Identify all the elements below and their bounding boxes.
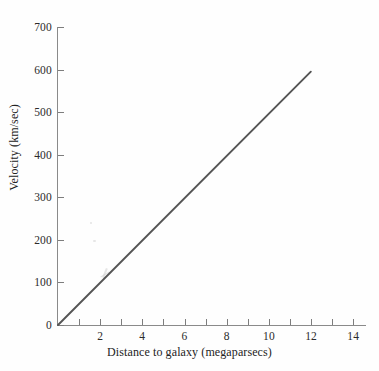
x-tick-12: [311, 319, 312, 325]
x-tick-7: [206, 319, 207, 325]
y-tick-600: [58, 70, 64, 71]
y-axis-title: Velocity (km/sec): [7, 88, 22, 208]
y-tick-0: [58, 325, 64, 326]
y-tick-label-100: 100: [8, 276, 52, 288]
x-axis-line: [58, 325, 366, 326]
x-tick-4: [142, 319, 143, 325]
y-tick-label-200: 200: [8, 234, 52, 246]
x-tick-3: [121, 319, 122, 325]
x-tick-label-8: 8: [224, 330, 230, 342]
y-tick-300: [58, 197, 64, 198]
scan-artifact: [100, 272, 109, 278]
x-tick-label-14: 14: [347, 330, 359, 342]
x-tick-14: [353, 319, 354, 325]
y-tick-label-600: 600: [8, 64, 52, 76]
x-tick-label-6: 6: [182, 330, 188, 342]
x-axis-title: Distance to galaxy (megaparsecs): [0, 345, 379, 360]
x-tick-6: [185, 319, 186, 325]
x-tick-label-4: 4: [139, 330, 145, 342]
hubble-law-chart: 700 600 500 400 300 200 100 0 2 4 6 8 10…: [0, 0, 379, 371]
x-tick-2: [100, 319, 101, 325]
y-tick-200: [58, 240, 64, 241]
series-line-hubble-relation: [58, 72, 311, 325]
x-tick-10: [269, 319, 270, 325]
y-tick-label-0: 0: [8, 319, 52, 331]
x-tick-5: [163, 319, 164, 325]
y-tick-label-700: 700: [8, 21, 52, 33]
x-tick-9: [248, 319, 249, 325]
x-tick-label-10: 10: [263, 330, 275, 342]
x-tick-8: [227, 319, 228, 325]
x-tick-label-12: 12: [305, 330, 317, 342]
x-tick-11: [290, 319, 291, 325]
y-tick-400: [58, 155, 64, 156]
x-tick-1: [79, 319, 80, 325]
x-tick-13: [332, 319, 333, 325]
y-axis-line: [57, 27, 58, 326]
y-tick-100: [58, 282, 64, 283]
y-tick-700: [58, 27, 64, 28]
x-tick-label-2: 2: [97, 330, 103, 342]
scan-artifact: [90, 222, 92, 224]
y-tick-500: [58, 112, 64, 113]
scan-artifact: [93, 240, 96, 242]
